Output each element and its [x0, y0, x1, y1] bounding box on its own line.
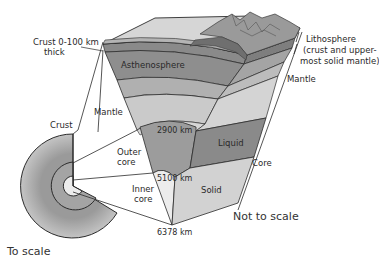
to-scale-cross-section — [21, 134, 117, 238]
mantle-left-label: Mantle — [94, 107, 123, 117]
lithosphere-label: Lithosphere — [306, 34, 356, 44]
asthenosphere-label: Asthenosphere — [121, 60, 185, 70]
outer-core-label: Outer — [117, 147, 142, 157]
inner-core-label-2: core — [134, 194, 152, 204]
lithosphere-label-3: most solid mantle) — [300, 56, 379, 66]
mantle-right-label: Mantle — [287, 74, 316, 84]
liquid-label: Liquid — [218, 138, 244, 148]
to-scale-label: To scale — [6, 245, 51, 258]
outer-core-label-2: core — [117, 157, 135, 167]
earth-structure-diagram: Crust 0-100 km thick Asthenosphere Litho… — [0, 0, 379, 263]
crust-left-label: Crust — [50, 120, 73, 130]
lithosphere-label-2: (crust and upper- — [303, 45, 376, 55]
depth-2900-label: 2900 km — [157, 126, 193, 135]
core-right-label: Core — [252, 158, 272, 168]
not-to-scale-label: Not to scale — [233, 210, 299, 223]
crust-thickness-label-2: thick — [44, 47, 65, 57]
depth-6378-label: 6378 km — [157, 228, 193, 237]
crust-thickness-label: Crust 0-100 km — [33, 37, 99, 47]
inner-core-label: Inner — [132, 184, 155, 194]
depth-5100-label: 5100 km — [157, 174, 193, 183]
solid-label: Solid — [201, 185, 222, 195]
